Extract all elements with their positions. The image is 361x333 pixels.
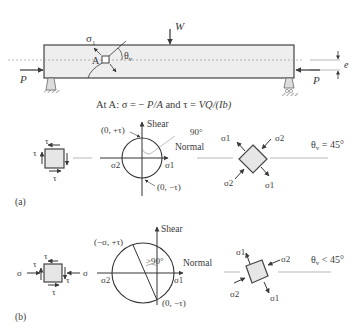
right-support bbox=[282, 78, 298, 96]
shear-axis-label: Shear bbox=[161, 224, 183, 234]
left-support bbox=[44, 78, 60, 93]
beam-body bbox=[44, 45, 294, 78]
tau-label: τ bbox=[44, 251, 48, 261]
sigma1-label: σ1 bbox=[165, 160, 174, 170]
panel-a: τ τ τ Shear Normal (0, +τ) (0, −τ) 90° σ… bbox=[15, 119, 344, 208]
sigma2-label: σ2 bbox=[281, 254, 290, 264]
top-point-label: (0, +τ) bbox=[101, 125, 125, 135]
sigma2-label: σ2 bbox=[224, 178, 233, 188]
theta-relation-label: θv < 45° bbox=[311, 254, 344, 267]
beam-figure: W P P e A σ1 θv At A: σ bbox=[8, 20, 349, 111]
shear-axis-label: Shear bbox=[147, 119, 169, 129]
point-a-label: A bbox=[92, 55, 100, 66]
bottom-point-label: (0, −τ) bbox=[157, 182, 181, 192]
sigma2-arrow bbox=[268, 260, 280, 265]
tau-label: τ bbox=[33, 148, 37, 158]
sigma1-arrow bbox=[246, 253, 250, 264]
right-force-label: P bbox=[312, 74, 320, 86]
sigma1-arrow bbox=[237, 142, 245, 151]
point-a-element bbox=[102, 56, 109, 63]
tau-label: τ bbox=[45, 136, 49, 146]
diagram-canvas: W P P e A σ1 θv At A: σ bbox=[0, 0, 361, 333]
tau-label: τ bbox=[66, 275, 70, 285]
angle-label: >90° bbox=[146, 256, 164, 266]
sigma1-arrow bbox=[261, 167, 269, 176]
sigma1-label: σ1 bbox=[174, 275, 183, 285]
angle-leader bbox=[150, 136, 175, 154]
sigma2-arrow bbox=[262, 139, 271, 149]
shear-element bbox=[45, 149, 64, 168]
panel-a-tag: (a) bbox=[15, 197, 26, 208]
angle-label: 90° bbox=[190, 127, 203, 137]
stress-element bbox=[44, 264, 62, 282]
sigma1-label: σ1 bbox=[221, 133, 230, 143]
angle-arc bbox=[142, 149, 150, 154]
theta-relation-label: θv = 45° bbox=[311, 139, 344, 152]
sigma2-label: σ2 bbox=[101, 275, 110, 285]
sigma2-label: σ2 bbox=[230, 289, 239, 299]
tau-label: τ bbox=[53, 173, 57, 183]
point-leader bbox=[145, 180, 155, 186]
sigma1-label: σ1 bbox=[236, 247, 245, 257]
left-force-label: P bbox=[19, 73, 27, 85]
load-label: W bbox=[175, 20, 185, 32]
sigma2-label: σ2 bbox=[275, 133, 284, 143]
tau-label: τ bbox=[52, 287, 56, 297]
sigma2-arrow bbox=[234, 278, 245, 283]
sigma2-label: σ2 bbox=[111, 160, 120, 170]
panel-b-tag: (b) bbox=[15, 312, 26, 323]
sigma-label: σ bbox=[83, 268, 88, 278]
bottom-point-label: (0, −τ) bbox=[162, 298, 186, 308]
sigma1-label: σ1 bbox=[270, 293, 279, 303]
sigma1-arrow bbox=[264, 282, 269, 293]
top-point-label: (−σ, +τ) bbox=[94, 237, 123, 247]
point-leader bbox=[130, 132, 140, 137]
normal-axis-label: Normal bbox=[183, 258, 212, 268]
sigma1-label: σ1 bbox=[265, 180, 274, 190]
sigma-label: σ bbox=[17, 268, 22, 278]
eccentricity-label: e bbox=[344, 59, 349, 70]
normal-axis-label: Normal bbox=[175, 142, 204, 152]
sigma2-arrow bbox=[235, 169, 244, 179]
stress-formula-caption: At A: σ = − P/A and τ = VQ/(Ib) bbox=[96, 99, 232, 111]
panel-b: σ σ τ τ τ τ (−σ, +τ) (0, −τ) >90° Shear … bbox=[15, 224, 344, 323]
tau-label: τ bbox=[33, 259, 37, 269]
